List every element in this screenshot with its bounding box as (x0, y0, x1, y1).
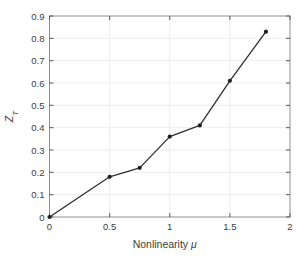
figure: 00.511.5200.10.20.30.40.50.60.70.80.9Non… (0, 0, 307, 262)
x-tick-label: 2 (287, 221, 292, 232)
y-tick-labels: 00.10.20.30.40.50.60.70.80.9 (31, 11, 44, 223)
line-chart: 00.511.5200.10.20.30.40.50.60.70.80.9Non… (0, 0, 307, 262)
x-tick-label: 1 (167, 221, 172, 232)
series-line (50, 32, 266, 217)
x-tick-label: 0.5 (103, 221, 116, 232)
data-point (198, 123, 202, 127)
y-tick-label: 0 (39, 212, 44, 223)
y-tick-label: 0.4 (31, 122, 44, 133)
grid-lines (50, 16, 291, 217)
y-tick-label: 0.7 (31, 55, 44, 66)
y-tick-label: 0.3 (31, 145, 44, 156)
data-point (138, 166, 142, 170)
data-point (108, 175, 112, 179)
y-tick-label: 0.2 (31, 167, 44, 178)
y-tick-label: 0.8 (31, 33, 44, 44)
y-tick-label: 0.9 (31, 11, 44, 22)
y-tick-label: 0.6 (31, 78, 44, 89)
x-tick-label: 0 (47, 221, 52, 232)
data-point (168, 135, 172, 139)
y-axis-label: ZT (3, 110, 20, 123)
x-tick-label: 1.5 (223, 221, 236, 232)
data-points (47, 30, 268, 220)
data-point (47, 215, 51, 219)
x-tick-labels: 00.511.52 (47, 221, 293, 232)
y-tick-label: 0.5 (31, 100, 44, 111)
y-tick-label: 0.1 (31, 189, 44, 200)
x-axis-label: Nonlinearity μ (133, 238, 197, 250)
data-point (264, 30, 268, 34)
data-point (228, 79, 232, 83)
